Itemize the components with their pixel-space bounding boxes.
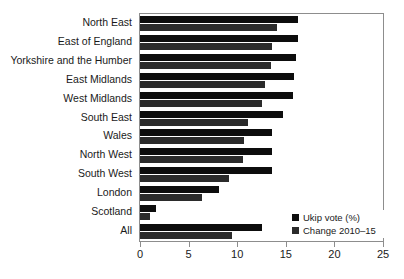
- x-axis-tick-label: 5: [186, 249, 192, 260]
- bar-ukip-vote: [140, 148, 272, 155]
- chart-legend: Ukip vote (%) Change 2010–15: [290, 210, 394, 238]
- bars-layer: [140, 14, 383, 241]
- legend-label-ukip-vote: Ukip vote (%): [303, 213, 360, 223]
- x-axis-tick: [334, 242, 335, 247]
- x-axis-tick-label: 15: [280, 249, 292, 260]
- y-axis-label: Wales: [103, 130, 132, 141]
- y-axis-label: North East: [82, 17, 132, 28]
- bar-ukip-vote: [140, 73, 294, 80]
- bar-ukip-vote: [140, 167, 272, 174]
- bar-change-2010-15: [140, 81, 265, 88]
- y-axis-label: East of England: [58, 36, 132, 47]
- bar-change-2010-15: [140, 213, 150, 220]
- y-axis-label: London: [97, 187, 132, 198]
- bar-ukip-vote: [140, 224, 262, 231]
- y-axis-label: West Midlands: [63, 93, 132, 104]
- bar-ukip-vote: [140, 35, 298, 42]
- bar-ukip-vote: [140, 16, 298, 23]
- bar-ukip-vote: [140, 54, 296, 61]
- y-axis-category-labels: North EastEast of EnglandYorkshire and t…: [0, 13, 136, 242]
- bar-change-2010-15: [140, 175, 229, 182]
- x-axis-tick: [189, 242, 190, 247]
- x-axis-tick-labels: 0510152025: [139, 249, 384, 265]
- x-axis-tick: [237, 242, 238, 247]
- legend-swatch-icon-change: [292, 227, 299, 234]
- y-axis-label: North West: [80, 149, 132, 160]
- y-axis-label: South West: [78, 168, 132, 179]
- y-axis-label: East Midlands: [66, 74, 132, 85]
- y-axis-label: Scotland: [91, 206, 132, 217]
- x-axis-tick-label: 25: [377, 249, 389, 260]
- bar-change-2010-15: [140, 24, 277, 31]
- bar-change-2010-15: [140, 194, 202, 201]
- x-axis-tick-label: 20: [328, 249, 340, 260]
- bar-change-2010-15: [140, 232, 232, 239]
- y-axis-label: South East: [81, 112, 132, 123]
- y-axis-label: Yorkshire and the Humber: [10, 55, 132, 66]
- bar-ukip-vote: [140, 92, 293, 99]
- legend-item-ukip-vote: Ukip vote (%): [292, 211, 392, 224]
- bar-change-2010-15: [140, 137, 244, 144]
- bar-ukip-vote: [140, 129, 272, 136]
- bar-change-2010-15: [140, 62, 271, 69]
- x-axis-tick: [383, 242, 384, 247]
- bar-change-2010-15: [140, 119, 248, 126]
- bar-change-2010-15: [140, 100, 262, 107]
- legend-label-change: Change 2010–15: [303, 226, 376, 236]
- bar-change-2010-15: [140, 43, 272, 50]
- bar-ukip-vote: [140, 186, 219, 193]
- chart-root: North EastEast of EnglandYorkshire and t…: [0, 0, 404, 279]
- bar-change-2010-15: [140, 156, 243, 163]
- y-axis-label: All: [120, 225, 132, 236]
- x-axis-tick: [140, 242, 141, 247]
- x-axis-tick: [286, 242, 287, 247]
- legend-swatch-icon-ukip-vote: [292, 214, 299, 221]
- x-axis-tick-label: 0: [137, 249, 143, 260]
- legend-item-change: Change 2010–15: [292, 224, 392, 237]
- x-axis-tick-label: 10: [231, 249, 243, 260]
- bar-ukip-vote: [140, 205, 156, 212]
- bar-ukip-vote: [140, 111, 283, 118]
